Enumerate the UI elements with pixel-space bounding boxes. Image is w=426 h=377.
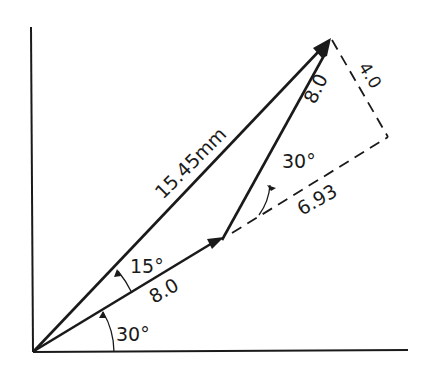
vector-2-label: 8.0 bbox=[299, 70, 332, 107]
perpendicular-line bbox=[332, 40, 388, 137]
vector-1-label: 8.0 bbox=[145, 273, 182, 307]
resultant-vector bbox=[34, 50, 320, 351]
angle-base-label: 30° bbox=[116, 323, 150, 345]
angle-relative-label: 30° bbox=[282, 150, 316, 172]
y-axis bbox=[31, 27, 33, 352]
parallel-label: 6.93 bbox=[293, 179, 341, 219]
x-axis bbox=[33, 350, 408, 352]
angle-between-label: 15° bbox=[130, 255, 164, 277]
vector-diagram: 15.45mm 8.0 4.0 6.93 8.0 30° 15° 30° bbox=[0, 0, 426, 377]
resultant-label: 15.45mm bbox=[150, 123, 230, 203]
angle-arc-30-relative-arrowhead bbox=[267, 185, 276, 191]
